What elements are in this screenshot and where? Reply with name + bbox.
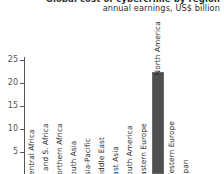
x-category-label: South Asia [70,141,77,174]
y-tick-mark [20,106,24,107]
y-axis-spine [24,57,25,174]
y-tick-label: 25 [0,56,18,64]
x-category-label: Middle East [98,137,105,174]
y-tick-label: 15 [0,102,18,110]
x-category-label: E. and S. Africa [42,124,49,174]
y-tick-label: 20 [0,79,18,87]
chart-plot-area: 510152025 Central AfricaE. and S. Africa… [0,16,224,174]
y-tick-mark [20,83,24,84]
x-category-label: Japan [182,160,189,174]
x-category-label: Western Europe [168,121,175,174]
y-tick-mark [20,60,24,61]
y-tick-label: 10 [0,125,18,133]
x-category-label: Northern Africa [56,123,63,174]
y-tick-mark [20,152,24,153]
x-category-label: Asia-Pacific [84,138,91,174]
y-tick-label: 5 [0,148,18,156]
x-category-label: North America [154,22,161,76]
x-category-label: East Asia [112,146,119,174]
x-category-label: Eastern Europe [140,123,147,174]
x-category-label: Central Africa [28,129,35,174]
chart-subtitle: annual earnings, US$ billion [103,3,220,13]
y-tick-mark [20,129,24,130]
x-category-label: South America [126,125,133,174]
bar-north-america [152,72,164,174]
